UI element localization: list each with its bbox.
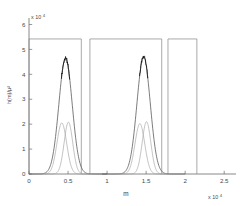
plot-background xyxy=(0,0,247,206)
x-tick-label: 0 xyxy=(27,177,31,184)
x-tick-label: 1 xyxy=(105,177,109,184)
y-tick-label: 5 xyxy=(22,46,26,53)
x-axis-label: m xyxy=(123,190,128,197)
y-axis-label: h(m)/µ² xyxy=(6,86,12,104)
y-tick-label: 1 xyxy=(22,145,26,152)
x-tick-label: 1.5 xyxy=(142,177,151,184)
y-tick-label: 4 xyxy=(22,71,26,78)
figure-container: 00.511.522.5 0123456 x 10 4 x 10 4 m h(m… xyxy=(0,0,247,206)
x-tick-label: 0.5 xyxy=(64,177,73,184)
y-tick-label: 3 xyxy=(22,95,26,102)
x-tick-label: 2 xyxy=(183,177,187,184)
y-tick-label: 2 xyxy=(22,120,26,127)
x-tick-label: 2.5 xyxy=(220,177,229,184)
y-tick-label: 6 xyxy=(22,21,26,28)
y-tick-label: 0 xyxy=(22,170,26,177)
chart-plot: 00.511.522.5 0123456 x 10 4 x 10 4 m h(m… xyxy=(0,0,247,206)
